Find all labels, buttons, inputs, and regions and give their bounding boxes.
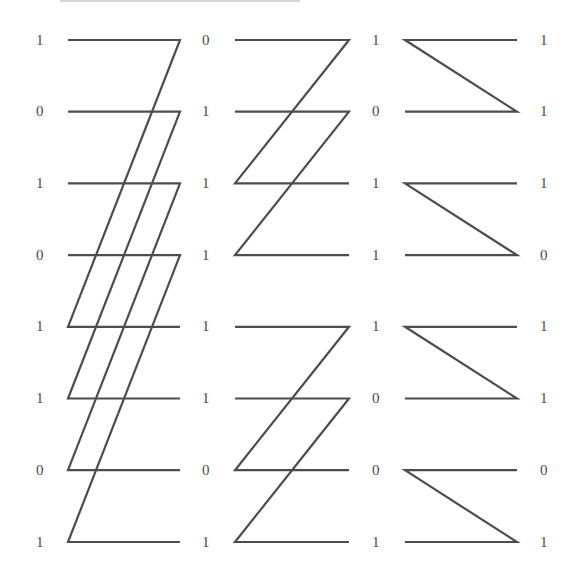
stage-3-wire-6-7 bbox=[405, 470, 517, 542]
col2-row3: 1 bbox=[372, 247, 380, 263]
wires bbox=[68, 40, 517, 542]
col2-row7: 1 bbox=[372, 534, 380, 550]
stage-3-wire-0-1 bbox=[405, 40, 517, 112]
col0-row2: 1 bbox=[36, 175, 44, 191]
col3-row4: 1 bbox=[540, 318, 548, 334]
col3-row0: 1 bbox=[540, 32, 548, 48]
col0-row4: 1 bbox=[36, 318, 44, 334]
col0-row1: 0 bbox=[36, 103, 44, 119]
col1-row3: 1 bbox=[202, 247, 210, 263]
col2-row0: 1 bbox=[372, 32, 380, 48]
col0-row3: 0 bbox=[36, 247, 44, 263]
col3-row5: 1 bbox=[540, 390, 548, 406]
col3-row7: 1 bbox=[540, 534, 548, 550]
col1-row5: 1 bbox=[202, 390, 210, 406]
col2-row6: 0 bbox=[372, 462, 380, 478]
col1-row2: 1 bbox=[202, 175, 210, 191]
col0-row6: 0 bbox=[36, 462, 44, 478]
col0-row7: 1 bbox=[36, 534, 44, 550]
col2-row5: 0 bbox=[372, 390, 380, 406]
col0-row5: 1 bbox=[36, 390, 44, 406]
col1-row7: 1 bbox=[202, 534, 210, 550]
col1-row1: 1 bbox=[202, 103, 210, 119]
col1-row6: 0 bbox=[202, 462, 210, 478]
col1-row4: 1 bbox=[202, 318, 210, 334]
col0-row0: 1 bbox=[36, 32, 44, 48]
col2-row1: 0 bbox=[372, 103, 380, 119]
col2-row2: 1 bbox=[372, 175, 380, 191]
col3-row1: 1 bbox=[540, 103, 548, 119]
col2-row4: 1 bbox=[372, 318, 380, 334]
col3-row3: 0 bbox=[540, 247, 548, 263]
stage-3-wire-4-5 bbox=[405, 327, 517, 399]
col3-row6: 0 bbox=[540, 462, 548, 478]
butterfly-network-diagram: 1 0 1 0 1 1 0 1 0 1 1 1 1 1 0 1 1 0 1 1 … bbox=[0, 0, 579, 580]
col3-row2: 1 bbox=[540, 175, 548, 191]
col1-row0: 0 bbox=[202, 32, 210, 48]
stage-3-wire-2-3 bbox=[405, 183, 517, 255]
cutoff-text-remnant bbox=[60, 0, 300, 2]
